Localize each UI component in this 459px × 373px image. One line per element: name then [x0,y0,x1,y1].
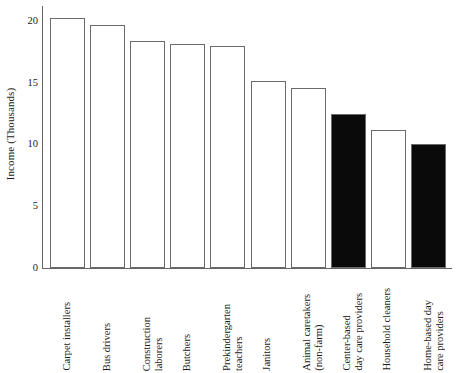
x-axis-label-line: care providers [434,300,446,371]
bar [291,88,326,268]
y-axis-line [42,6,43,268]
bar [411,144,446,268]
y-tick-label: 10 [14,139,38,149]
x-axis-label-line: Bus drivers [101,323,113,371]
bar [50,18,85,268]
plot-area: 05101520 [0,0,459,268]
x-axis-label-line: day care providers [353,293,365,371]
y-tick-5: 5 [8,201,38,211]
x-axis-label-line: teachers [233,304,245,371]
x-axis-label: Constructionlaborers [130,269,165,373]
y-tick-label: 15 [14,78,38,88]
x-axis-label-line: Janitors [261,338,273,371]
x-axis-label-line: Construction [141,317,153,371]
x-axis-label: Household cleaners [371,269,406,373]
x-axis-label: Bus drivers [90,269,125,373]
x-axis-label-line: Butchers [181,334,193,371]
x-axis-label-line: Animal caretakers [301,294,313,371]
x-axis-label: Butchers [170,269,205,373]
y-tick-label: 5 [14,201,38,211]
x-axis-label: Animal caretakers(non-farm) [291,269,326,373]
x-axis-label: Janitors [251,269,286,373]
y-tick-15: 15 [8,78,38,88]
x-axis-label-line: Center-based [341,293,353,371]
x-axis-label: Home-based daycare providers [411,269,446,373]
bar [170,44,205,268]
x-axis-label-line: laborers [153,317,165,371]
bar [251,81,286,268]
x-axis-label-line: Household cleaners [381,288,393,371]
x-axis-label-line: Prekindergarten [221,304,233,371]
x-axis-label-line: (non-farm) [313,294,325,371]
x-axis-label: Prekindergartenteachers [210,269,245,373]
x-axis-label-line: Carpet installers [61,302,73,371]
bar [130,41,165,268]
y-tick-10: 10 [8,139,38,149]
y-tick-label: 20 [14,16,38,26]
bar-chart-figure: Income (Thousands) 05101520 Carpet insta… [0,0,459,373]
bar [210,46,245,268]
bar [331,114,366,268]
x-axis-category-labels: Carpet installersBus driversConstruction… [0,269,459,373]
y-tick-20: 20 [8,16,38,26]
x-axis-label-line: Home-based day [422,300,434,371]
x-axis-label: Carpet installers [50,269,85,373]
x-axis-label: Center-basedday care providers [331,269,366,373]
bar [90,25,125,268]
bar [371,130,406,268]
